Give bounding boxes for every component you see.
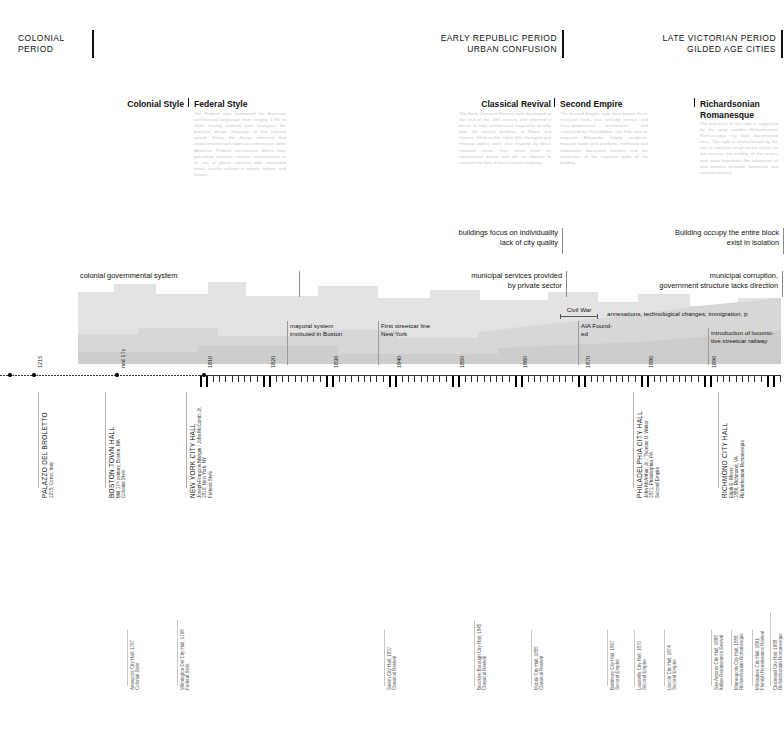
minor-building-line: Richardsonian Romanesque <box>778 633 783 690</box>
annotation-4: municipal corruption,government structur… <box>540 271 778 291</box>
axis-tick <box>603 376 604 382</box>
timeline-axis <box>0 370 781 392</box>
axis-tick <box>433 376 434 382</box>
axis-tick <box>540 376 541 382</box>
axis-tick <box>679 376 680 382</box>
axis-tick <box>326 376 328 387</box>
axis-tick <box>263 376 265 387</box>
axis-tick <box>370 376 371 382</box>
axis-tick <box>717 376 718 382</box>
minor-building-label-5: Baltimore City Hall, 1867Second Empire <box>610 640 621 690</box>
minor-building-line: Classical Revival <box>392 647 397 690</box>
event-line: mayoral system <box>290 322 342 330</box>
axis-tick <box>710 376 712 387</box>
style-heading-1: Federal Style <box>194 99 286 110</box>
axis-tick <box>704 376 706 387</box>
year-label-1810: 1810 <box>207 356 213 368</box>
axis-tick <box>269 376 271 387</box>
style-description-4: The popularity of this style is suggeste… <box>700 121 778 176</box>
building-subtitle: Colonial Style <box>121 427 127 498</box>
year-label-1870: 1870 <box>585 356 591 368</box>
axis-tick <box>509 376 510 382</box>
annotation-line: municipal corruption, <box>540 271 778 281</box>
axis-tick <box>276 376 277 382</box>
axis-tick <box>647 376 649 387</box>
building-label-0: PALAZZO DEL BROLETTO1215, Como, Italy <box>41 412 54 498</box>
axis-tick <box>736 376 737 382</box>
year-label-1890: 1890 <box>711 356 717 368</box>
building-title: PALAZZO DEL BROLETTO <box>41 412 49 498</box>
annotation-tick <box>299 271 300 297</box>
axis-tick <box>654 376 655 382</box>
building-leader-3 <box>633 392 634 488</box>
minor-building-label-0: Annapolis City Hall, 1767Colonial Style <box>130 640 141 690</box>
year-label-1820: 1820 <box>270 356 276 368</box>
minor-leader-0 <box>127 630 128 686</box>
minor-leader-4 <box>531 630 532 686</box>
axis-tick <box>225 376 226 382</box>
minor-building-label-3: Brooklyn Borough City Hall, 1845Classica… <box>477 624 488 690</box>
axis-tick <box>358 376 359 382</box>
axis-tick <box>641 376 643 387</box>
axis-tick <box>414 376 415 382</box>
event-label-0: mayoral systeminstituted in Boston <box>290 322 342 337</box>
style-heading-2: Classical Revival <box>459 99 551 110</box>
axis-tick <box>597 376 598 382</box>
style-description-1: The Federal style dominated the American… <box>194 111 286 178</box>
civil-war-label: Civil War <box>567 306 592 313</box>
event-leader-line <box>287 321 288 365</box>
axis-tick <box>471 376 472 382</box>
annotation-line: municipal services provided <box>330 271 562 281</box>
axis-tick <box>439 376 440 382</box>
event-leader-line <box>378 321 379 365</box>
axis-tick <box>465 376 466 382</box>
event-leader-line <box>708 328 709 365</box>
axis-tick <box>553 376 554 382</box>
building-leader-0 <box>38 392 39 488</box>
minor-building-line: Second Empire <box>642 641 647 690</box>
style-description-2: The Early Classical Revival style develo… <box>459 111 551 166</box>
minor-leader-1 <box>177 620 178 686</box>
period-divider-bar <box>562 30 564 58</box>
axis-tick <box>729 376 730 382</box>
axis-tick <box>635 376 636 382</box>
axis-tick <box>578 376 580 387</box>
axis-tick <box>421 376 422 382</box>
axis-tick <box>339 376 340 382</box>
building-label-4: RICHMOND CITY HALLElijah E. Myers1886, R… <box>721 423 745 498</box>
axis-tick <box>742 376 743 382</box>
building-leader-2 <box>186 392 187 488</box>
axis-tick <box>408 376 409 382</box>
axis-tick <box>616 376 617 382</box>
annotation-line: government structure lacks direction <box>540 281 778 291</box>
year-label-1850: 1850 <box>459 356 465 368</box>
axis-tick <box>754 376 755 382</box>
event-line: annexations, technological changes, immi… <box>607 310 747 318</box>
civil-war-rule <box>560 316 598 317</box>
building-title: BOSTON TOWN HALL <box>108 427 116 498</box>
axis-tick <box>213 376 214 382</box>
period-subtitle: GILDED AGE CITIES <box>600 44 776 55</box>
minor-building-label-2: Salem City Hall, 1837Classical Revival <box>387 647 398 690</box>
period-divider-bar <box>781 30 783 58</box>
axis-tick <box>767 376 769 387</box>
annotation-line: by private sector <box>330 281 562 291</box>
period-title: EARLY REPUBLIC PERIOD <box>380 33 557 44</box>
axis-tick <box>748 376 749 382</box>
style-divider-rule-4 <box>694 98 695 107</box>
minor-leader-7 <box>664 630 665 686</box>
axis-tick <box>238 376 239 382</box>
axis-marker-dot <box>8 373 11 376</box>
event-label-2: AIA Found-ed <box>581 322 612 337</box>
axis-tick <box>515 376 517 387</box>
event-line: ed <box>581 330 612 338</box>
minor-leader-9 <box>731 630 732 686</box>
building-label-3: PHILADELPHIA CITY HALLJohn McArthur, Jr.… <box>636 411 660 498</box>
annotation-line: Building occupy the entire block <box>520 228 779 238</box>
year-label-1840: 1840 <box>396 356 402 368</box>
axis-marker-dot <box>32 373 35 376</box>
axis-tick <box>351 376 352 382</box>
civil-war-span: Civil War <box>560 306 598 314</box>
axis-tick <box>584 376 586 387</box>
style-divider-rule-1 <box>188 98 189 107</box>
